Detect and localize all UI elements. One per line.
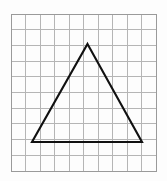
- geometry-figure: [0, 0, 167, 181]
- grid-triangle-svg: [0, 0, 167, 181]
